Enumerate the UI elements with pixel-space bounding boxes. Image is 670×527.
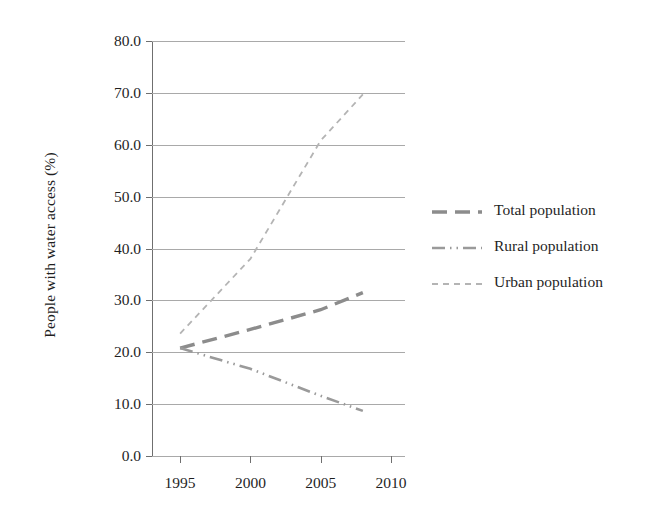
legend-item[interactable]: Urban population [432, 264, 662, 300]
series-lines [152, 41, 405, 456]
y-tick-label: 10.0 [114, 395, 141, 413]
legend-swatch-icon [432, 204, 482, 216]
x-tick-label: 1995 [165, 474, 196, 492]
x-tick-label: 2010 [375, 474, 406, 492]
y-tick-mark [146, 456, 152, 457]
series-line-1 [180, 348, 363, 411]
legend-label: Urban population [494, 273, 603, 291]
y-tick-label: 80.0 [114, 32, 141, 50]
series-line-0 [180, 293, 363, 349]
legend-swatch-icon [432, 240, 482, 252]
gridline [152, 456, 405, 457]
x-tick-mark [250, 456, 251, 463]
legend-item[interactable]: Total population [432, 192, 662, 228]
legend-swatch-icon [432, 276, 482, 288]
series-line-2 [180, 94, 363, 333]
y-tick-label: 20.0 [114, 343, 141, 361]
legend-label: Rural population [494, 237, 599, 255]
x-tick-mark [321, 456, 322, 463]
y-tick-label: 70.0 [114, 84, 141, 102]
y-tick-label: 40.0 [114, 240, 141, 258]
line-chart: People with water access (%) 0.010.020.0… [0, 0, 670, 527]
y-axis-title: People with water access (%) [41, 45, 59, 445]
x-tick-mark [180, 456, 181, 463]
y-tick-label: 30.0 [114, 291, 141, 309]
y-tick-label: 0.0 [122, 447, 141, 465]
plot-area: 0.010.020.030.040.050.060.070.080.0 1995… [152, 41, 405, 456]
y-tick-label: 50.0 [114, 188, 141, 206]
x-tick-label: 2005 [305, 474, 336, 492]
y-tick-label: 60.0 [114, 136, 141, 154]
chart-legend: Total populationRural populationUrban po… [432, 192, 662, 300]
legend-label: Total population [494, 201, 596, 219]
x-tick-label: 2000 [235, 474, 266, 492]
x-tick-mark [391, 456, 392, 463]
legend-item[interactable]: Rural population [432, 228, 662, 264]
